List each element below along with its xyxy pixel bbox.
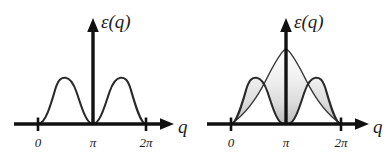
right-panel-tick-label-0: 0 bbox=[228, 135, 235, 150]
dispersion-figure: 0 π 2π ε(q) q 0 π bbox=[0, 0, 386, 159]
right-panel-y-axis-label: ε(q) bbox=[294, 11, 324, 33]
left-panel-tick-label-2pi: 2π bbox=[139, 135, 153, 150]
right-panel-x-axis-label: q bbox=[373, 116, 383, 137]
left-panel-tick-label-pi: π bbox=[90, 135, 97, 150]
left-panel-tick-label-0: 0 bbox=[35, 135, 42, 150]
figure-background bbox=[0, 0, 386, 159]
right-panel-tick-label-2pi: 2π bbox=[334, 135, 348, 150]
left-panel-x-axis-label: q bbox=[178, 116, 188, 137]
right-panel-tick-label-pi: π bbox=[283, 135, 290, 150]
left-panel-y-axis-label: ε(q) bbox=[101, 11, 131, 33]
figure-root: 0 π 2π ε(q) q 0 π bbox=[0, 0, 386, 159]
